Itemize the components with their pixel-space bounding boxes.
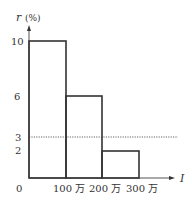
y-tick-10: 10 [11, 36, 24, 47]
x-axis-label: I [179, 172, 185, 185]
bar-0-100 [29, 41, 66, 178]
y-axis-unit: (%) [25, 13, 41, 23]
y-tick-3: 3 [15, 132, 21, 143]
y-axis-arrow-icon [27, 25, 31, 31]
x-tick-0: 0 [16, 183, 22, 194]
x-tick-100: 100 万 [53, 183, 85, 194]
y-tick-6: 6 [14, 91, 20, 102]
y-axis-label: r [16, 11, 22, 24]
step-histogram-chart: r (%) I 10 6 3 2 0 100 万 200 万 300 万 [0, 0, 192, 203]
x-axis-arrow-icon [169, 176, 175, 180]
x-tick-300: 300 万 [126, 183, 158, 194]
y-tick-2: 2 [15, 145, 21, 156]
x-tick-200: 200 万 [89, 183, 121, 194]
bar-200-300 [102, 151, 139, 178]
